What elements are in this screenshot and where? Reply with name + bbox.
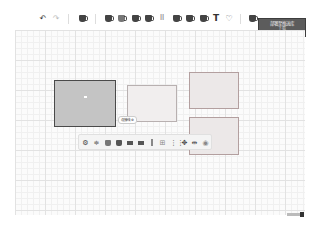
- top-toolbar: ↶ ↷ ⠿ T ♡ 部署至推送库 下载: [0, 8, 315, 30]
- toolbar-divider: [95, 14, 96, 24]
- document-tool-icon[interactable]: [199, 14, 207, 23]
- rectangle-shape-selected[interactable]: [54, 80, 116, 127]
- border-icon[interactable]: [126, 139, 133, 147]
- sticky-note-tool-icon[interactable]: ♡: [225, 14, 233, 23]
- shape-tool-icon[interactable]: [78, 14, 86, 23]
- connector-label[interactable]: 连接线 ⊕: [118, 116, 137, 124]
- style-icon[interactable]: [104, 139, 111, 147]
- cylinder-tool-icon[interactable]: [172, 14, 180, 23]
- line-icon[interactable]: [148, 139, 155, 147]
- floating-shape-toolbar: ⚙ ≑ ⊞ ⋮⋮ ✥ ⇹ ◉: [78, 134, 212, 150]
- rect-tool-icon[interactable]: [104, 14, 112, 23]
- redo-icon[interactable]: ↷: [52, 14, 60, 23]
- shadow-icon[interactable]: [137, 139, 144, 147]
- zoom-slider-handle[interactable]: [300, 212, 304, 217]
- rectangle-shape[interactable]: [189, 72, 239, 109]
- arrange-icon[interactable]: ⊞: [159, 139, 166, 147]
- toolbar-divider: [68, 14, 69, 24]
- toolbar-divider: [240, 14, 241, 24]
- diamond-tool-icon[interactable]: [131, 14, 139, 23]
- connector-label-text: 连接线: [121, 117, 130, 123]
- align-icon[interactable]: ≑: [93, 139, 100, 147]
- cube-tool-icon[interactable]: [185, 14, 193, 23]
- add-connector-icon[interactable]: ⊕: [131, 117, 134, 123]
- shape-center-handle[interactable]: [84, 96, 87, 98]
- split-icon[interactable]: ⇹: [191, 139, 198, 147]
- ellipse-tool-icon[interactable]: [117, 14, 125, 23]
- undo-icon[interactable]: ↶: [39, 14, 47, 23]
- fill-icon[interactable]: [115, 139, 122, 147]
- text-tool-icon[interactable]: T: [212, 14, 220, 23]
- view-icon[interactable]: ◉: [202, 139, 209, 147]
- settings-icon[interactable]: ⚙: [82, 139, 89, 147]
- layers-icon[interactable]: [248, 14, 256, 23]
- triangle-tool-icon[interactable]: [144, 14, 152, 23]
- grid-tool-icon[interactable]: ⠿: [158, 14, 166, 23]
- distribute-icon[interactable]: ⋮⋮: [170, 139, 177, 147]
- more-icon[interactable]: ✥: [181, 139, 188, 147]
- zoom-slider[interactable]: [287, 213, 304, 216]
